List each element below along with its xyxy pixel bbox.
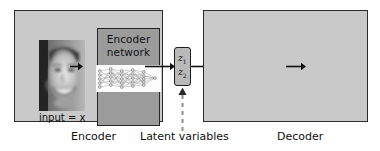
- caption-decoder: Decoder: [277, 130, 323, 143]
- latent-variable-z1: z1: [178, 53, 186, 67]
- encoder-network-box: Encodernetwork: [97, 28, 160, 126]
- input-to-encoder-arrow-icon: [70, 61, 83, 72]
- latent-z1-subscript: 1: [183, 58, 187, 65]
- caption-encoder: Encoder: [71, 130, 116, 143]
- encoder-network-title: Encodernetwork: [98, 33, 159, 58]
- encoder-panel: Encodernetwork: [14, 10, 163, 122]
- autoencoder-diagram: Encodernetwork: [0, 0, 380, 151]
- latent-z2-subscript: 2: [183, 71, 187, 78]
- caption-latent-variables: Latent variables: [140, 130, 229, 143]
- decoder-to-output-arrow-icon: [286, 61, 306, 72]
- encoder-network-title-line2: network: [107, 46, 150, 58]
- latent-variable-z2: z2: [178, 67, 186, 81]
- input-face-image: [39, 40, 85, 111]
- latent-variables-box: z1 z2: [174, 47, 191, 86]
- encoder-to-latent-arrow-icon: [145, 61, 175, 72]
- input-caption: input = x: [39, 112, 85, 123]
- latent-sampling-dashed-arrow-icon: [175, 86, 190, 131]
- encoder-network-title-line1: Encoder: [107, 33, 151, 45]
